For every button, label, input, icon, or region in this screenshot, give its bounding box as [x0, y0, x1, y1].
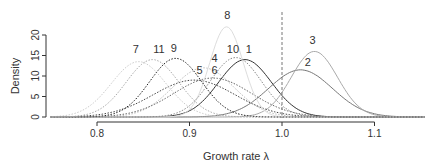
y-tick-label: 5 — [30, 93, 41, 99]
curve-label-11: 11 — [153, 43, 164, 55]
density-curves — [51, 27, 425, 117]
y-axis: 05101520 — [30, 29, 46, 120]
curve-label-10: 10 — [227, 43, 239, 55]
density-curve-4 — [51, 68, 425, 117]
density-curve-2 — [51, 70, 425, 117]
density-chart: 7119546810132 05101520 0.80.91.01.1 Dens… — [0, 0, 432, 166]
x-tick-label: 1.1 — [368, 128, 382, 139]
y-tick-label: 0 — [30, 114, 41, 120]
curve-label-7: 7 — [133, 43, 139, 55]
curve-label-5: 5 — [197, 64, 203, 76]
x-axis: 0.80.91.01.1 — [90, 122, 382, 139]
x-tick-label: 1.0 — [275, 128, 289, 139]
curve-label-2: 2 — [305, 56, 311, 68]
y-axis-label: Density — [9, 57, 21, 94]
y-tick-label: 20 — [30, 29, 41, 41]
curve-label-6: 6 — [211, 64, 217, 76]
curve-label-8: 8 — [224, 9, 230, 21]
curve-label-4: 4 — [211, 52, 217, 64]
density-curve-10 — [51, 58, 425, 117]
y-tick-label: 15 — [30, 50, 41, 62]
y-tick-label: 10 — [30, 70, 41, 82]
density-curve-6 — [51, 78, 425, 117]
curve-labels: 7119546810132 — [133, 9, 316, 77]
density-curve-11 — [51, 60, 425, 117]
density-curve-7 — [51, 62, 425, 117]
density-curve-8 — [51, 27, 425, 117]
curve-label-1: 1 — [246, 43, 252, 55]
curve-label-9: 9 — [171, 42, 177, 54]
density-curve-9 — [51, 58, 425, 117]
density-curve-1 — [51, 60, 425, 117]
x-tick-label: 0.8 — [90, 128, 104, 139]
x-tick-label: 0.9 — [183, 128, 197, 139]
curve-label-3: 3 — [309, 34, 315, 46]
x-axis-label: Growth rate λ — [203, 150, 270, 162]
density-curve-5 — [51, 80, 425, 117]
